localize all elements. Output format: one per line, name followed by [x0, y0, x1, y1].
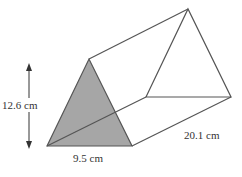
length-label: 20.1 cm: [184, 129, 219, 141]
height-label: 12.6 cm: [2, 98, 37, 112]
front-triangle-face: [47, 59, 132, 146]
top-edge: [89, 9, 188, 59]
back-triangle-face: [146, 9, 231, 97]
prism-diagram: [0, 0, 242, 177]
base-label: 9.5 cm: [73, 152, 103, 164]
